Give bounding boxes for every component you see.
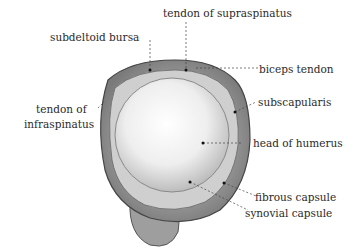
label-tendon-of-infraspinatus-2: infraspinatus (24, 118, 94, 130)
label-synovial-capsule: synovial capsule (245, 207, 332, 219)
label-head-of-humerus: head of humerus (253, 137, 343, 149)
label-tendon-of-supraspinatus: tendon of supraspinatus (163, 7, 292, 19)
label-subdeltoid-bursa: subdeltoid bursa (50, 31, 139, 43)
label-tendon-of-infraspinatus-1: tendon of (36, 103, 87, 115)
label-biceps-tendon: biceps tendon (259, 63, 334, 75)
label-fibrous-capsule: fibrous capsule (255, 191, 336, 203)
label-subscapularis: subscapularis (258, 96, 331, 108)
